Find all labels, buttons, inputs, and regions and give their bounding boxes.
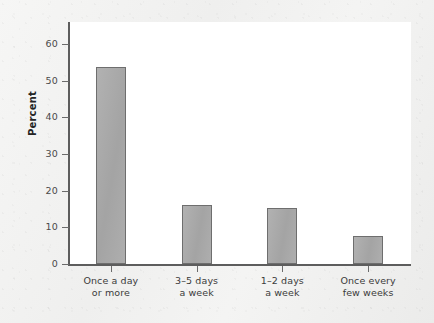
- y-tick-mark: [62, 154, 69, 155]
- x-tick-mark: [368, 266, 369, 272]
- x-category-label-line2: a week: [240, 287, 326, 299]
- y-tick-mark: [62, 81, 69, 82]
- y-axis-line: [68, 22, 70, 266]
- x-axis-line: [68, 264, 411, 266]
- bar: [182, 205, 212, 264]
- x-category-label-line1: 1–2 days: [261, 275, 304, 286]
- y-tick-mark: [62, 227, 69, 228]
- y-tick-label: 0: [52, 259, 58, 269]
- y-tick-mark: [62, 191, 69, 192]
- x-category-label: 1–2 daysa week: [240, 275, 326, 299]
- x-category-label: Once everyfew weeks: [325, 275, 411, 299]
- x-category-label-line1: Once every: [340, 275, 395, 286]
- y-tick-label: 40: [46, 113, 59, 123]
- y-tick-mark: [62, 44, 69, 45]
- y-tick-label: 60: [46, 39, 59, 49]
- x-category-label-line2: a week: [154, 287, 240, 299]
- x-category-label-line1: Once a day: [83, 275, 138, 286]
- x-category-label-line2: or more: [68, 287, 154, 299]
- x-category-label-line1: 3–5 days: [175, 275, 218, 286]
- y-tick-label: 30: [46, 149, 59, 159]
- y-tick-label: 20: [46, 186, 59, 196]
- x-category-label: Once a dayor more: [68, 275, 154, 299]
- x-tick-mark: [282, 266, 283, 272]
- bar: [267, 208, 297, 264]
- y-tick-mark: [62, 264, 69, 265]
- x-tick-mark: [111, 266, 112, 272]
- bar: [96, 67, 126, 264]
- x-category-label-line2: few weeks: [325, 287, 411, 299]
- y-tick-label: 10: [46, 223, 59, 233]
- bar-chart-figure: Percent 0102030405060 Once a dayor more3…: [0, 0, 434, 323]
- x-tick-mark: [197, 266, 198, 272]
- y-tick-mark: [62, 117, 69, 118]
- y-axis-title: Percent: [27, 79, 38, 149]
- y-tick-label: 50: [46, 76, 59, 86]
- bar: [353, 236, 383, 264]
- x-category-label: 3–5 daysa week: [154, 275, 240, 299]
